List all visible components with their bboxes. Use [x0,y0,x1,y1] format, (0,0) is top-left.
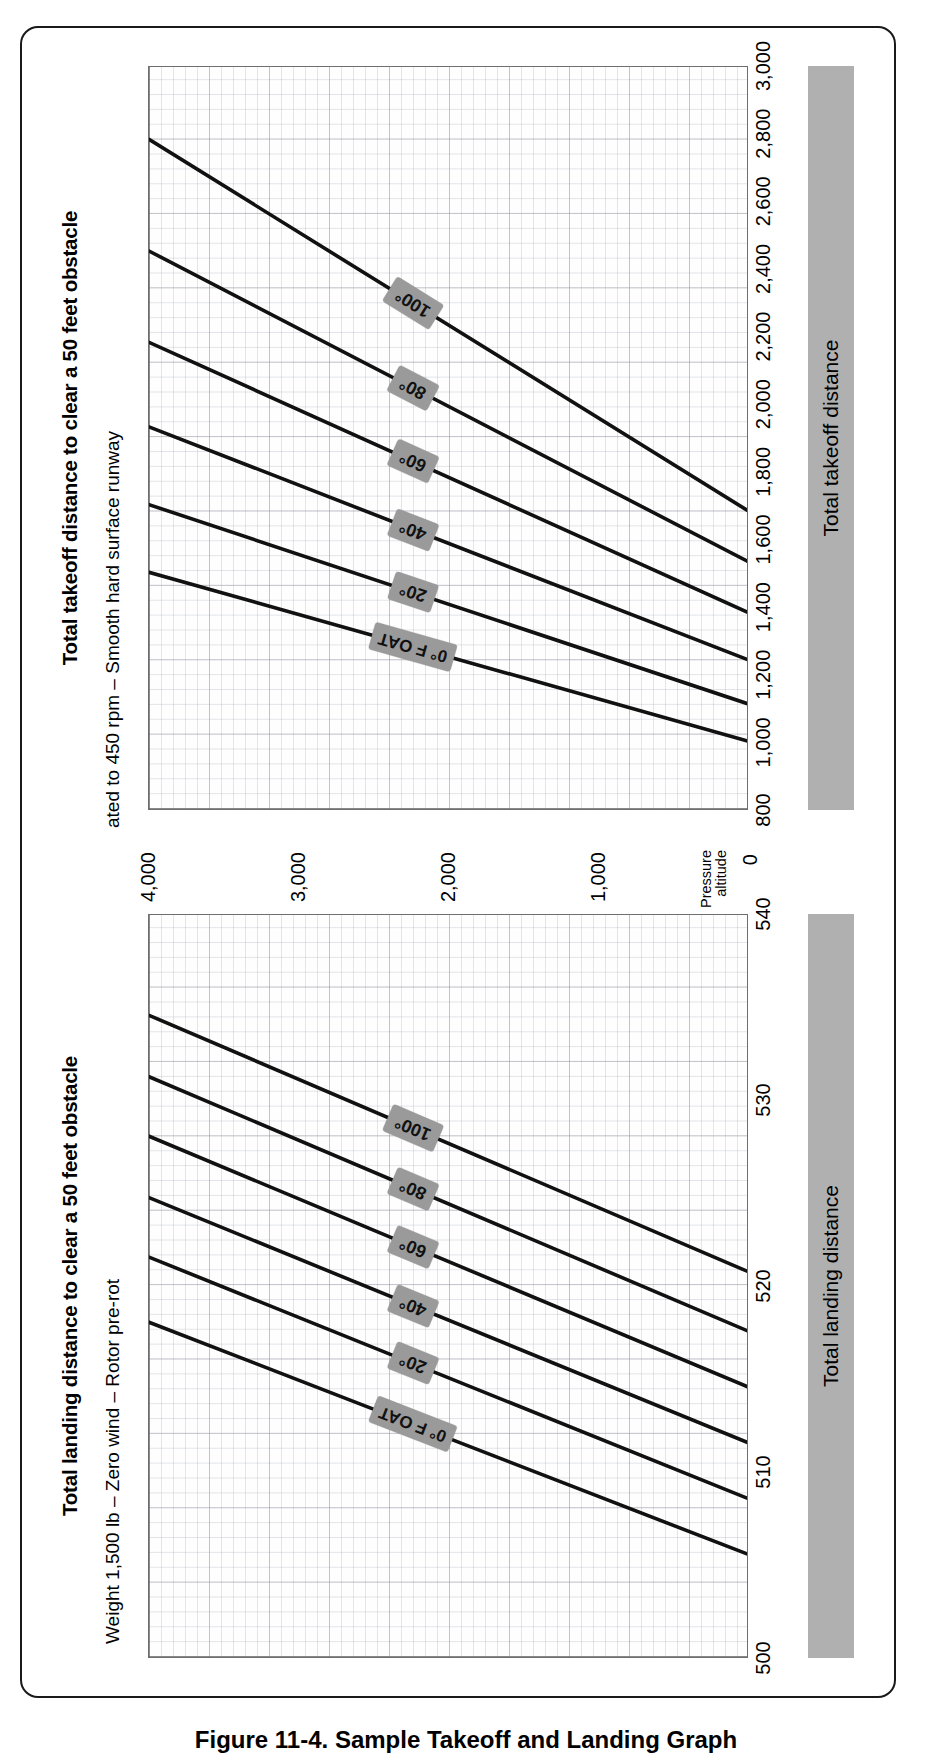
takeoff-x-tick: 1,400 [752,582,775,632]
takeoff-plot-area: 0° F OAT20°40°60°80°100° [148,66,748,810]
landing-x-tick: 530 [752,1083,775,1116]
landing-x-axis-band: Total landing distance [808,914,854,1658]
y-tick-label: 1,000 [587,852,610,902]
landing-x-tick: 510 [752,1455,775,1488]
takeoff-x-tick: 2,000 [752,379,775,429]
takeoff-x-tick: 1,000 [752,717,775,767]
y-tick-label: 2,000 [437,852,460,902]
takeoff-curve-1 [149,505,748,705]
takeoff-x-tick: 2,600 [752,176,775,226]
takeoff-x-tick: 1,800 [752,447,775,497]
takeoff-x-tick-labels: 8001,0001,2001,4001,6001,8002,0002,2002,… [752,66,786,810]
takeoff-x-tick: 1,600 [752,514,775,564]
landing-plot-area: 0° F OAT20°40°60°80°100° [148,914,748,1658]
y-axis-title-line2: altitude [713,850,729,897]
takeoff-x-tick: 800 [752,793,775,826]
takeoff-x-axis-band: Total takeoff distance [808,66,854,810]
takeoff-chart-subtitle: ated to 450 rpm – Smooth hard surface ru… [102,431,124,828]
takeoff-curves [149,66,748,809]
landing-chart-subtitle: Weight 1,500 lb – Zero wind – Rotor pre-… [102,1279,124,1644]
takeoff-curve-3 [149,342,748,613]
shared-y-tick-labels: Pressure altitude 0 4,0003,0002,0001,000 [148,848,748,906]
y-axis-title: Pressure altitude [699,850,729,908]
y-axis-title-line1: Pressure [698,850,714,908]
takeoff-curve-2 [149,427,748,660]
takeoff-x-tick: 2,200 [752,312,775,362]
panel-landing: Total landing distance to clear a 50 fee… [24,878,892,1694]
landing-x-tick: 500 [752,1641,775,1674]
landing-chart-title: Total landing distance to clear a 50 fee… [58,878,82,1694]
panel-takeoff: Total takeoff distance to clear a 50 fee… [24,30,892,846]
takeoff-x-tick: 2,400 [752,244,775,294]
takeoff-curve-5 [149,139,748,511]
landing-x-tick: 520 [752,1269,775,1302]
y-axis-zero-label: 0 [739,854,762,865]
takeoff-x-tick: 3,000 [752,41,775,91]
landing-x-axis-title: Total landing distance [819,1185,843,1387]
figure-caption: Figure 11-4. Sample Takeoff and Landing … [0,1726,932,1754]
landing-x-tick-labels: 500510520530540 [752,914,786,1658]
takeoff-chart-title: Total takeoff distance to clear a 50 fee… [58,30,82,846]
takeoff-x-axis-title: Total takeoff distance [819,340,843,537]
y-tick-label: 4,000 [137,852,160,902]
takeoff-curve-4 [149,251,748,562]
takeoff-x-tick: 2,800 [752,109,775,159]
takeoff-x-tick: 1,200 [752,650,775,700]
figure-frame: Total landing distance to clear a 50 fee… [20,26,896,1698]
rotated-chart-stage: Total landing distance to clear a 50 fee… [24,30,892,1694]
y-tick-label: 3,000 [287,852,310,902]
landing-curves [149,914,748,1657]
landing-curve-3 [149,1136,748,1387]
landing-x-tick: 540 [752,897,775,930]
